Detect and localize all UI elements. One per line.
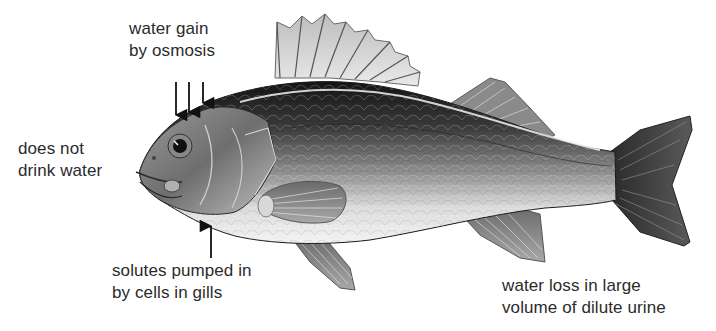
label-water-gain-line2: by osmosis (129, 40, 215, 62)
label-solutes-line2: by cells in gills (112, 282, 252, 304)
label-solutes-pumped: solutes pumped in by cells in gills (112, 260, 252, 304)
label-water-gain-line1: water gain (129, 18, 215, 40)
label-does-not-drink-line2: drink water (18, 160, 102, 182)
caudal-fin (610, 116, 692, 246)
dorsal-fin-spiny (275, 14, 420, 86)
label-solutes-line1: solutes pumped in (112, 260, 252, 282)
osmoregulation-diagram: water gain by osmosis does not drink wat… (0, 0, 716, 331)
pelvic-fin (290, 236, 355, 290)
label-water-loss-urine: water loss in large volume of dilute uri… (502, 275, 666, 319)
label-water-gain: water gain by osmosis (129, 18, 215, 62)
label-does-not-drink-line1: does not (18, 138, 102, 160)
label-urine-line1: water loss in large (502, 275, 666, 297)
label-does-not-drink: does not drink water (18, 138, 102, 182)
label-urine-line2: volume of dilute urine (502, 297, 666, 319)
